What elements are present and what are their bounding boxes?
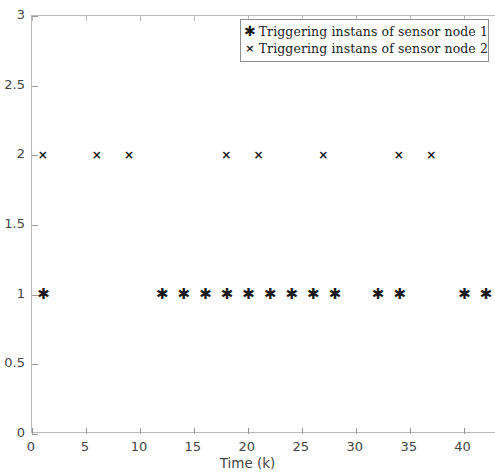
y-axis-tick <box>32 364 38 365</box>
x-axis-tick-label: 40 <box>443 440 483 453</box>
asterisk-marker-icon: ✱ <box>241 23 259 40</box>
asterisk-marker: ✱ <box>242 289 253 300</box>
x-axis-tick <box>194 428 195 434</box>
cross-marker: × <box>221 150 232 161</box>
cross-marker: × <box>318 150 329 161</box>
x-axis-title: Time (k) <box>0 455 495 471</box>
y-axis-tick <box>32 225 38 226</box>
asterisk-marker: ✱ <box>264 289 275 300</box>
x-axis-tick <box>86 428 87 434</box>
y-axis-tick-label: 0.5 <box>4 356 25 369</box>
y-axis-tick-label: 2 <box>17 147 25 160</box>
x-axis-tick <box>302 428 303 434</box>
y-axis-tick <box>32 86 38 87</box>
asterisk-marker: ✱ <box>178 289 189 300</box>
cross-marker: × <box>91 150 102 161</box>
asterisk-marker: ✱ <box>372 289 383 300</box>
asterisk-marker: ✱ <box>37 289 48 300</box>
x-axis-tick-label: 10 <box>119 440 159 453</box>
x-axis-tick-label: 35 <box>389 440 429 453</box>
cross-marker-icon: × <box>241 40 259 57</box>
asterisk-marker: ✱ <box>329 289 340 300</box>
asterisk-marker: ✱ <box>307 289 318 300</box>
cross-marker: × <box>393 150 404 161</box>
plot-area: ✱✱✱✱✱✱✱✱✱✱✱✱✱✱×××××××× <box>31 15 495 433</box>
asterisk-marker: ✱ <box>285 289 296 300</box>
cross-marker: × <box>426 150 437 161</box>
cross-marker: × <box>253 150 264 161</box>
y-axis-tick-label: 1.5 <box>4 217 25 230</box>
chart-legend: ✱ Triggering instans of sensor node 1 × … <box>240 19 489 62</box>
x-axis-tick <box>356 428 357 434</box>
asterisk-marker: ✱ <box>199 289 210 300</box>
y-axis-tick-label: 0 <box>17 426 25 439</box>
x-axis-tick <box>248 428 249 434</box>
x-axis-tick-top <box>140 16 141 21</box>
chart-figure: 00.511.522.53 ✱✱✱✱✱✱✱✱✱✱✱✱✱✱×××××××× 051… <box>0 0 495 476</box>
x-axis-tick-label: 15 <box>173 440 213 453</box>
asterisk-marker: ✱ <box>480 289 491 300</box>
x-axis-tick-label: 0 <box>11 440 51 453</box>
asterisk-marker: ✱ <box>156 289 167 300</box>
x-axis-tick-label: 5 <box>65 440 105 453</box>
y-axis-tick-label: 2.5 <box>4 78 25 91</box>
legend-entry-label: Triggering instans of sensor node 2 <box>259 41 488 56</box>
x-axis-tick <box>410 428 411 434</box>
x-axis-tick <box>464 428 465 434</box>
y-axis-tick-label: 1 <box>17 287 25 300</box>
asterisk-marker: ✱ <box>458 289 469 300</box>
legend-entry: ✱ Triggering instans of sensor node 1 <box>241 23 488 40</box>
y-axis-tick-label: 3 <box>17 8 25 21</box>
y-axis-tick <box>32 434 38 435</box>
x-axis-tick-top <box>194 16 195 21</box>
x-axis-tick-label: 20 <box>227 440 267 453</box>
legend-entry: × Triggering instans of sensor node 2 <box>241 40 488 57</box>
asterisk-marker: ✱ <box>393 289 404 300</box>
cross-marker: × <box>37 150 48 161</box>
y-axis-tick <box>32 16 38 17</box>
cross-marker: × <box>124 150 135 161</box>
legend-entry-label: Triggering instans of sensor node 1 <box>259 24 488 39</box>
asterisk-marker: ✱ <box>221 289 232 300</box>
x-axis-tick <box>140 428 141 434</box>
x-axis-tick-label: 25 <box>281 440 321 453</box>
x-axis-tick-label: 30 <box>335 440 375 453</box>
x-axis-tick-top <box>86 16 87 21</box>
